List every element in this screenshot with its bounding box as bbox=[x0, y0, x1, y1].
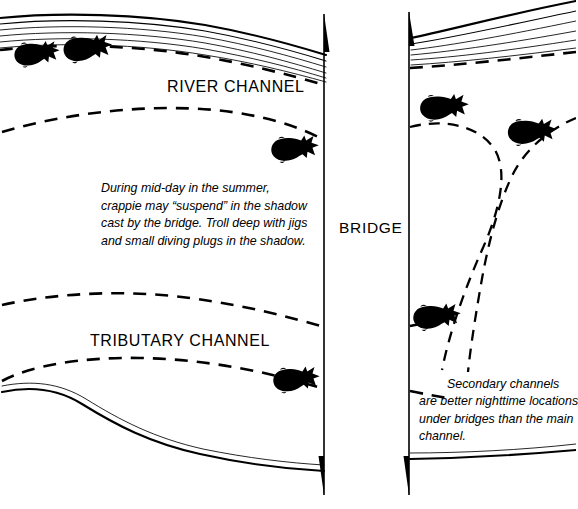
fish-upper-left-1 bbox=[13, 39, 61, 69]
note-secondary-line-1: Secondary channels bbox=[419, 376, 578, 393]
fish-tributary-channel bbox=[272, 365, 321, 395]
label-river-channel: RIVER CHANNEL bbox=[167, 78, 305, 96]
label-tributary-channel: TRIBUTARY CHANNEL bbox=[90, 332, 270, 350]
note-secondary-line-4: channel. bbox=[419, 428, 578, 445]
fish-bridge-east-2 bbox=[507, 117, 557, 146]
fish-secondary-channel bbox=[412, 302, 462, 332]
tributary-channel-north-edge bbox=[2, 293, 324, 327]
fish-bridge-east-1 bbox=[419, 92, 470, 122]
river-channel-south-edge bbox=[2, 108, 324, 140]
bridge-structure bbox=[319, 12, 415, 495]
note-midday-line-4: and small diving plugs in the shadow. bbox=[101, 233, 307, 251]
note-midday-line-3: cast by the bridge. Troll deep with jigs bbox=[101, 215, 307, 233]
river-channel-north-edge-right bbox=[410, 52, 576, 68]
fish-upper-left-2 bbox=[62, 33, 113, 65]
label-bridge: BRIDGE bbox=[339, 219, 403, 237]
note-midday-line-1: During mid-day in the summer, bbox=[101, 180, 307, 198]
shoreline-lower-right bbox=[410, 444, 576, 459]
note-midday: During mid-day in the summer, crappie ma… bbox=[101, 180, 307, 250]
note-midday-line-2: crappie may “suspend” in the shadow bbox=[101, 198, 307, 216]
shoreline-lower-left bbox=[2, 383, 324, 471]
note-secondary: Secondary channels are better nighttime … bbox=[419, 376, 578, 446]
secondary-channel-west-edge bbox=[410, 123, 501, 370]
fish-river-channel bbox=[270, 134, 320, 164]
note-secondary-line-2: are better nighttime locations bbox=[419, 393, 578, 410]
note-secondary-line-3: under bridges than the main bbox=[419, 411, 578, 428]
